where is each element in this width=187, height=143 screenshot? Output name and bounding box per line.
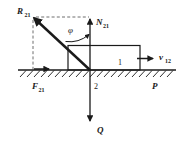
friction-force-subscript: 21 [39, 87, 45, 93]
angle-arc [66, 35, 90, 42]
ground-hatching [20, 71, 173, 78]
physics-diagram: R 21 N 21 φ 1 v 12 F 21 2 P Q [0, 0, 187, 143]
body-one-label: 1 [118, 58, 122, 67]
reaction-force-arrow [34, 18, 90, 70]
angle-label: φ [68, 25, 73, 35]
weight-force-label: Q [97, 125, 104, 135]
reaction-force-label: R [16, 6, 23, 16]
diagram-canvas: R 21 N 21 φ 1 v 12 F 21 2 P Q [0, 0, 187, 143]
normal-force-subscript: 21 [103, 23, 109, 29]
body-two-label: 2 [94, 82, 98, 91]
normal-force-label: N [95, 17, 103, 27]
friction-force-label: F [31, 81, 38, 91]
point-p-label: P [152, 81, 158, 91]
velocity-subscript: 12 [165, 58, 171, 64]
reaction-force-subscript: 21 [25, 12, 31, 18]
velocity-label: v [159, 52, 164, 62]
block-body-1 [68, 46, 140, 71]
